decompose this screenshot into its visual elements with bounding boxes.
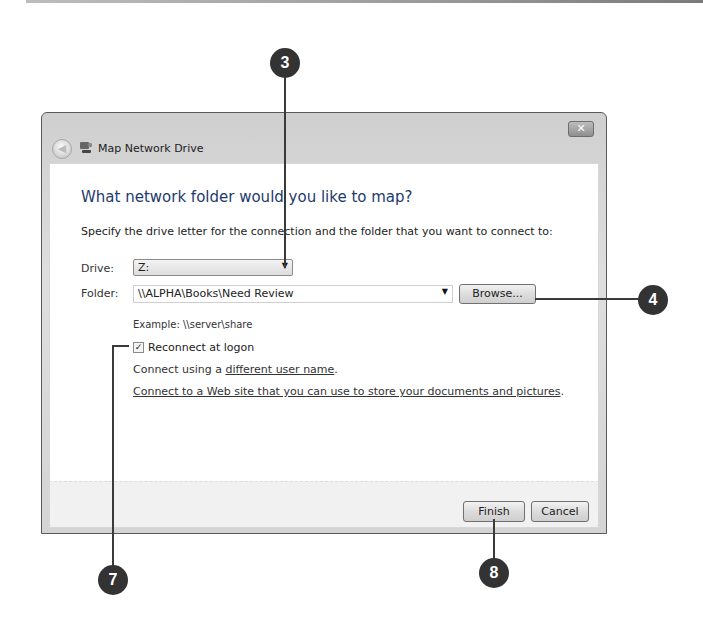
dialog-content: What network folder would you like to ma… xyxy=(49,163,599,482)
callout-3: 3 xyxy=(270,48,300,78)
folder-label: Folder: xyxy=(81,287,119,300)
connect-suffix: . xyxy=(334,363,338,376)
browse-button[interactable]: Browse... xyxy=(459,284,536,304)
callout-3-line xyxy=(284,72,286,268)
network-drive-icon xyxy=(79,141,93,154)
drive-value: Z: xyxy=(138,261,149,274)
folder-example: Example: \\server\share xyxy=(133,319,252,330)
checkmark-icon: ✓ xyxy=(135,342,143,352)
web-site-line: Connect to a Web site that you can use t… xyxy=(133,385,564,398)
chevron-down-icon[interactable]: ▼ xyxy=(442,287,448,296)
callout-7-line-v xyxy=(112,345,114,567)
callout-8: 8 xyxy=(479,558,509,588)
cancel-button[interactable]: Cancel xyxy=(531,501,589,522)
callout-7-line-h xyxy=(113,345,129,347)
instructions-text: Specify the drive letter for the connect… xyxy=(81,225,553,238)
reconnect-checkbox[interactable]: ✓ xyxy=(133,342,144,353)
folder-input[interactable]: \\ALPHA\Books\Need Review ▼ xyxy=(133,285,453,303)
map-network-drive-dialog: ✕ ◀ Map Network Drive What network folde… xyxy=(41,112,607,534)
callout-8-line xyxy=(493,519,495,561)
web-suffix: . xyxy=(561,385,565,398)
callout-4-line xyxy=(535,298,655,300)
connect-different-user: Connect using a different user name. xyxy=(133,363,338,376)
dialog-title: Map Network Drive xyxy=(98,142,203,155)
title-bar: ✕ ◀ Map Network Drive xyxy=(42,113,606,163)
callout-4: 4 xyxy=(638,285,668,315)
callout-7: 7 xyxy=(98,565,128,595)
page-top-rule xyxy=(26,0,703,3)
page-heading: What network folder would you like to ma… xyxy=(81,188,413,206)
close-icon: ✕ xyxy=(576,122,585,135)
drive-label: Drive: xyxy=(81,262,114,275)
drive-select[interactable]: Z: ▼ xyxy=(133,259,293,276)
different-user-link[interactable]: different user name xyxy=(225,363,334,376)
connect-prefix: Connect using a xyxy=(133,363,225,376)
close-button[interactable]: ✕ xyxy=(568,121,594,137)
web-site-link[interactable]: Connect to a Web site that you can use t… xyxy=(133,385,561,398)
reconnect-label[interactable]: Reconnect at logon xyxy=(148,341,254,354)
folder-value: \\ALPHA\Books\Need Review xyxy=(138,287,294,300)
back-arrow-icon: ◀ xyxy=(58,142,66,155)
back-button[interactable]: ◀ xyxy=(52,139,72,159)
